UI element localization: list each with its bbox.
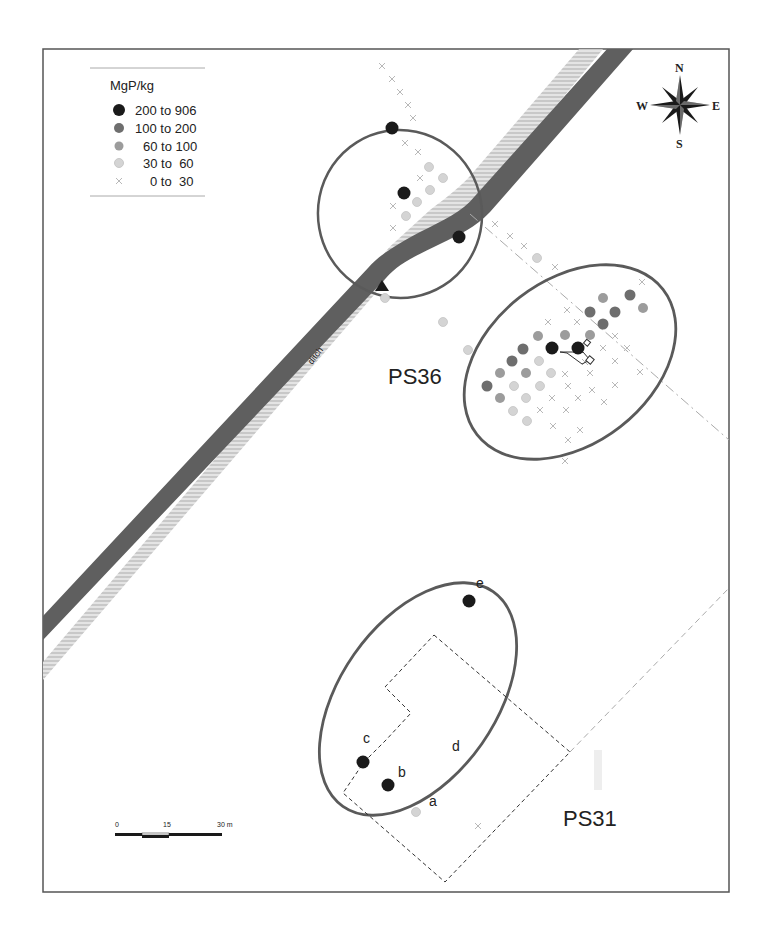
sample-point-c4 [509,407,518,416]
sample-label-e: e [476,575,484,591]
sample-point-c1 [382,779,395,792]
sample-point-c4 [533,254,542,263]
sample-point-c2 [625,290,636,301]
legend-dot-30-60 [115,159,124,168]
sample-label-c: c [363,730,370,746]
sample-point-c4 [535,357,544,366]
sample-point-c3 [521,368,531,378]
sample-point-c1 [546,342,559,355]
legend-dot-60-100 [115,142,124,151]
site-map: ditch PS36 PS31 e c d b a MgP/kg 200 to … [0,0,767,941]
sample-point-c4 [464,346,473,355]
sample-point-c3 [533,331,543,341]
sample-point-c1 [572,342,585,355]
sample-point-c1 [463,595,476,608]
sample-point-c1 [386,122,399,135]
sample-point-c2 [507,356,518,367]
site-label-ps31: PS31 [563,806,617,831]
sample-point-c1 [453,231,466,244]
compass-east: E [712,99,720,113]
legend-label-100-200: 100 to 200 [135,121,196,136]
sample-label-a: a [429,793,437,809]
compass-north: N [675,61,684,75]
faint-smudge [594,750,602,790]
legend-label-200-906: 200 to 906 [135,103,196,118]
sample-point-c4 [425,163,434,172]
sample-point-c3 [495,368,505,378]
compass-south: S [676,137,683,151]
legend-dot-100-200 [114,123,124,133]
legend-label-30-60: 30 to 60 [143,156,194,171]
sample-label-d: d [452,738,460,754]
sample-point-c4 [510,382,519,391]
sample-point-c4 [402,212,411,221]
sample-label-b: b [398,764,406,780]
compass-west: W [636,99,648,113]
sample-point-c4 [439,174,448,183]
scale-tick-0: 0 [115,821,119,828]
legend-label-0-30: 0 to 30 [150,174,193,189]
sample-point-c4 [412,808,421,817]
sample-point-c4 [426,186,435,195]
sample-point-c2 [482,381,493,392]
scale-tick-30: 30 m [217,821,233,828]
legend-label-60-100: 60 to 100 [143,139,197,154]
sample-point-c3 [495,393,505,403]
sample-point-c1 [398,187,411,200]
sample-point-c4 [536,382,545,391]
sample-point-c2 [518,344,529,355]
sample-point-c3 [560,330,570,340]
map-frame [43,49,729,892]
sample-point-c4 [439,318,448,327]
sample-point-c2 [585,307,596,318]
legend-dot-200-906 [113,104,125,116]
sample-point-c2 [610,307,621,318]
sample-point-c3 [585,330,595,340]
scale-tick-15: 15 [163,821,171,828]
sample-point-c1 [357,756,370,769]
sample-point-c4 [522,394,531,403]
sample-point-c3 [598,293,608,303]
sample-point-c2 [598,319,609,330]
sample-point-c4 [547,369,556,378]
sample-point-c4 [523,417,532,426]
site-label-ps36: PS36 [388,364,442,389]
legend-title: MgP/kg [110,78,154,93]
sample-point-c4 [381,294,390,303]
sample-point-c3 [638,303,648,313]
sample-point-c4 [413,198,422,207]
